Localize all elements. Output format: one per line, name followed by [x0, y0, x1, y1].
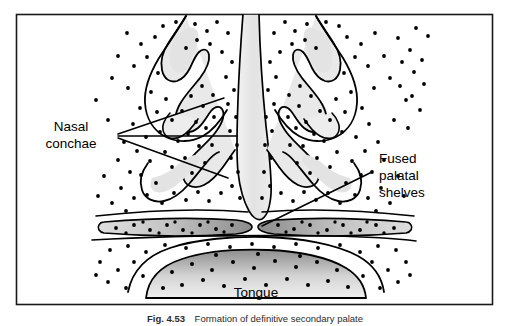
fused-palatal-shelves-line1: Fused — [379, 151, 417, 166]
fused-palatal-shelves-line2: palatal — [379, 168, 419, 183]
svg-text:Fig. 4.53 Formation of: Fig. 4.53 Formation of definitive second… — [147, 313, 363, 324]
label-tongue: Tongue — [234, 285, 278, 300]
caption-body: Formation of definitive secondary palate — [195, 313, 363, 324]
anatomical-diagram: Nasal conchae Fused palatal shelves Tong… — [0, 0, 510, 326]
caption-number: Fig. 4.53 — [147, 313, 185, 324]
nasal-conchae-line2: conchae — [45, 136, 96, 151]
nasal-conchae-line1: Nasal — [54, 119, 89, 134]
figure-caption: Fig. 4.53 Formation of definitive second… — [147, 313, 363, 324]
fused-palatal-shelves-line3: shelves — [379, 185, 425, 200]
figure-container: Nasal conchae Fused palatal shelves Tong… — [0, 0, 510, 326]
